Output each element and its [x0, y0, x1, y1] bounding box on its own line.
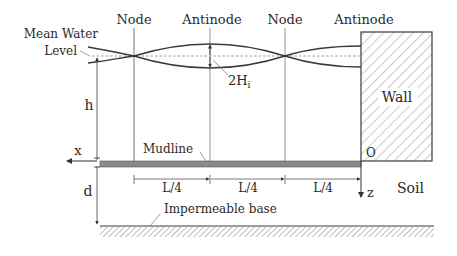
dimension-label-3: L/4	[313, 181, 333, 195]
mudline-leader	[200, 152, 206, 161]
antinode-label-1: Antinode	[181, 12, 242, 27]
wave-height-main: 2H	[228, 73, 248, 88]
impermeable-base-leader	[150, 214, 160, 226]
x-axis-label: x	[74, 143, 82, 158]
wall-label: Wall	[382, 89, 413, 105]
node-label-2: Node	[267, 12, 303, 27]
node-label-1: Node	[116, 12, 152, 27]
impermeable-base-label: Impermeable base	[164, 202, 277, 216]
soil-depth-label: d	[84, 183, 93, 199]
impermeable-base-hatch	[100, 227, 434, 237]
dimension-label-2: L/4	[238, 181, 258, 195]
mudline-label: Mudline	[143, 142, 193, 156]
antinode-label-2: Antinode	[333, 12, 394, 27]
wave-height-label: 2Hi	[228, 73, 251, 90]
mean-water-level-label-line1: Mean Water	[24, 27, 98, 41]
z-axis-label: z	[367, 185, 374, 200]
wave-height-subscript: i	[248, 80, 251, 90]
standing-wave-diagram: Node Antinode Node Antinode Mean Water L…	[0, 0, 457, 256]
lower-envelope	[88, 56, 361, 68]
origin-label: O	[366, 146, 376, 160]
dimension-label-1: L/4	[162, 181, 182, 195]
soil-label: Soil	[397, 180, 424, 196]
mwl-leader	[80, 51, 90, 56]
mudline-bar	[100, 161, 361, 167]
upper-envelope	[88, 44, 361, 56]
mean-water-level-label-line2: Level	[44, 44, 77, 58]
water-depth-label: h	[84, 97, 93, 113]
